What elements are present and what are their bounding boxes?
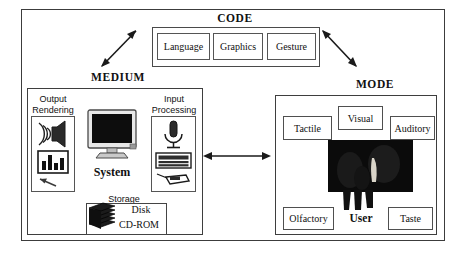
- bar-chart-icon: [38, 151, 68, 173]
- input-processing-label-line1: Input: [164, 94, 184, 104]
- mode-item-taste[interactable]: Taste: [388, 207, 433, 230]
- mode-item-auditory[interactable]: Auditory: [390, 116, 435, 140]
- code-item-gesture[interactable]: Gesture: [267, 33, 316, 60]
- double-headed-arrow-diagonal-down: [316, 24, 362, 72]
- input-processing-label: Input Processing: [147, 94, 201, 115]
- mode-section-heading: MODE: [320, 78, 430, 90]
- connector-medium-mode: [202, 146, 272, 166]
- code-item-language[interactable]: Language: [157, 33, 210, 60]
- user-label: User: [336, 212, 386, 224]
- output-rendering-label-line2: Rendering: [32, 105, 74, 115]
- user-photograph: [328, 140, 413, 192]
- mode-item-visual[interactable]: Visual: [338, 106, 383, 130]
- monitor-icon: [82, 108, 142, 163]
- mouse-icon: [157, 174, 189, 184]
- keyboard-icon: [156, 153, 191, 168]
- connector-code-mode: [316, 24, 362, 72]
- mode-item-tactile[interactable]: Tactile: [283, 116, 332, 140]
- double-headed-arrow-horizontal: [202, 146, 272, 166]
- user-legs-shape: [340, 190, 376, 212]
- mode-item-olfactory[interactable]: Olfactory: [283, 207, 334, 230]
- output-rendering-icon-panel: [31, 116, 75, 192]
- double-headed-arrow-diagonal-up: [96, 24, 142, 72]
- medium-section-heading: MEDIUM: [58, 71, 178, 83]
- speaker-icon: [39, 121, 65, 147]
- microphone-icon: [165, 121, 182, 148]
- code-section-heading: CODE: [175, 12, 295, 24]
- storage-media-cdrom: CD-ROM: [113, 219, 165, 230]
- output-rendering-label-line1: Output: [39, 94, 66, 104]
- output-rendering-label: Output Rendering: [26, 94, 80, 115]
- input-processing-label-line2: Processing: [152, 105, 197, 115]
- output-icons-group: [32, 117, 74, 191]
- input-processing-icon-panel: [151, 116, 196, 192]
- input-icons-group: [152, 117, 195, 191]
- connector-medium-code: [96, 24, 142, 72]
- cursor-arrow-icon: [40, 179, 56, 187]
- storage-media-disk: Disk: [118, 204, 164, 215]
- code-item-graphics[interactable]: Graphics: [213, 33, 263, 60]
- system-label: System: [77, 165, 147, 180]
